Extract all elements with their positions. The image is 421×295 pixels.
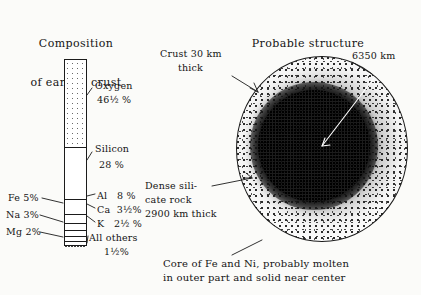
label-na: Na 3%: [6, 209, 39, 220]
label-earth-radius: 6350 km: [352, 50, 395, 61]
label-crust-line1: Crust 30 km: [160, 48, 222, 59]
leader-mg: [40, 232, 63, 237]
bar-segment-silicon: [65, 147, 86, 199]
label-silicon-name: Silicon: [95, 143, 129, 154]
label-silicon-pct: 28 %: [99, 159, 124, 170]
label-ca: Ca 3½%: [97, 204, 142, 215]
label-mantle-line3: 2900 km thick: [145, 208, 217, 219]
right-panel-title-line1: Probable structure: [228, 38, 388, 51]
bar-segment-all-others: [65, 245, 86, 247]
figure-canvas: Composition of earth's crust Probable st…: [0, 0, 421, 295]
bar-segment-al: [65, 199, 86, 214]
leader-na: [40, 215, 63, 222]
label-all-others-name: All others: [89, 232, 138, 243]
label-oxygen-name: Oxygen: [95, 80, 133, 91]
label-core-caption-line1: Core of Fe and Ni, probably molten: [163, 258, 349, 271]
label-core-caption-line2: in outer part and solid near center: [163, 272, 346, 285]
leader-al: [87, 194, 95, 196]
label-oxygen-pct: 46½ %: [97, 94, 131, 105]
label-all-others-pct: 1½%: [104, 246, 129, 257]
left-panel-title-line1: Composition: [6, 38, 146, 51]
label-mantle-line2: cate rock: [145, 194, 192, 205]
leader-silicon: [87, 152, 92, 160]
earth-core: [258, 90, 370, 202]
bar-segment-fe: [65, 214, 86, 223]
leader-all-others: [87, 236, 88, 243]
label-fe: Fe 5%: [8, 192, 39, 203]
earth-cross-section: [236, 56, 408, 242]
composition-bar: [64, 59, 87, 246]
label-mg: Mg 2%: [6, 226, 41, 237]
label-mantle-line1: Dense sili-: [145, 180, 197, 191]
bar-segment-oxygen: [65, 60, 86, 147]
leader-core: [232, 240, 262, 255]
leader-fe: [42, 198, 63, 203]
leader-ca: [87, 204, 95, 208]
bar-segment-ca: [65, 223, 86, 230]
label-k: K 2½ %: [97, 218, 142, 229]
label-crust-line2: thick: [178, 62, 203, 73]
label-al: Al 8 %: [97, 190, 136, 201]
leader-k: [87, 216, 95, 222]
